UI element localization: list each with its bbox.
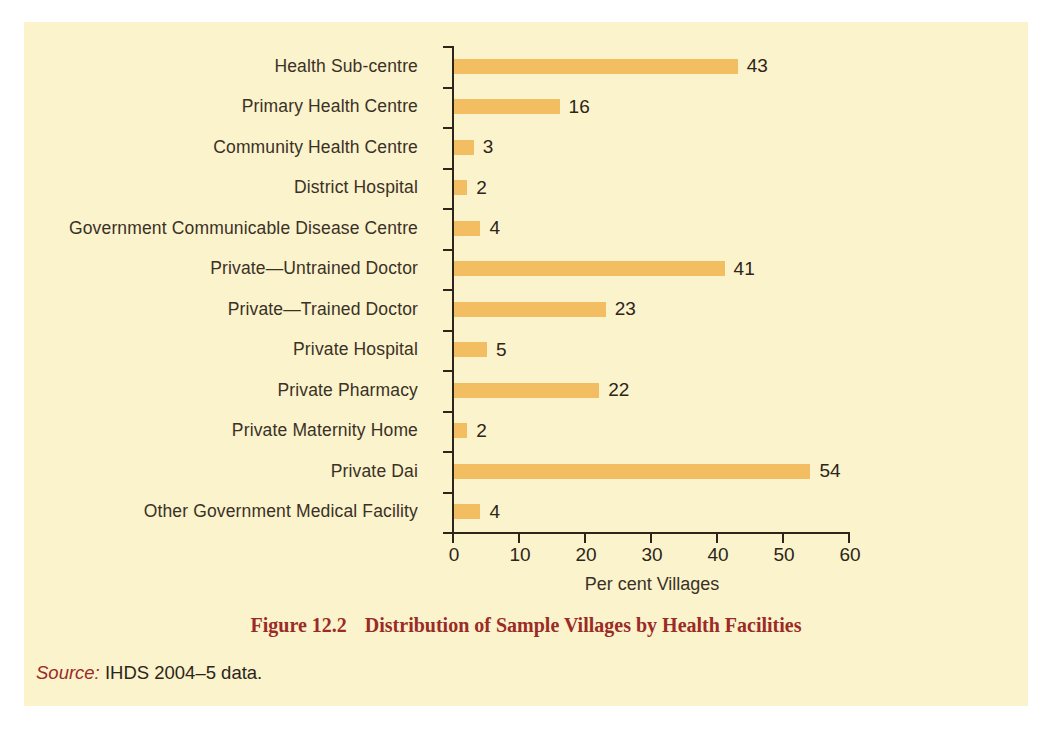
x-axis-tick-label: 0 [424,544,484,566]
category-label-private-dai: Private Dai [331,461,428,482]
x-axis-tick [650,534,652,543]
bar-value-label: 4 [480,501,500,523]
bar-government-communicable-disease-centre [454,221,480,236]
category-label-community-health-centre: Community Health Centre [213,137,428,158]
source-note: Source: IHDS 2004–5 data. [36,662,262,684]
category-label-other-government-medical-facility: Other Government Medical Facility [144,501,428,522]
bar-private-trained-doctor [454,302,606,317]
y-axis-tick [443,289,452,291]
bar-private-maternity-home [454,423,467,438]
category-label-government-communicable-disease-centre: Government Communicable Disease Centre [69,218,428,239]
x-axis-tick-label: 20 [556,544,616,566]
category-row: Private Dai [24,451,428,492]
bar-private-untrained-doctor [454,261,725,276]
x-axis-tick [584,534,586,543]
category-label-private-maternity-home: Private Maternity Home [232,420,428,441]
bar-community-health-centre [454,140,474,155]
category-label-private-untrained-doctor: Private—Untrained Doctor [210,258,428,279]
x-axis-tick-label: 60 [820,544,880,566]
category-label-private-hospital: Private Hospital [293,339,428,360]
plot-area: 0102030405060 43 16 3 2 4 41 23 5 22 2 5… [452,46,912,532]
bar-row: 4 [454,208,912,249]
bar-value-label: 54 [810,460,840,482]
y-axis-tick [443,370,452,372]
bar-chart: Health Sub-centre Primary Health Centre … [24,22,1028,582]
x-axis-tick [452,534,454,543]
bar-value-label: 2 [467,420,487,442]
x-axis-tick [518,534,520,543]
bar-row: 2 [454,411,912,452]
y-axis-tick [443,330,452,332]
category-row: Private Pharmacy [24,370,428,411]
bar-value-label: 41 [725,258,755,280]
category-row: Health Sub-centre [24,46,428,87]
x-axis-tick-label: 30 [622,544,682,566]
y-axis-tick [443,168,452,170]
y-axis-tick [443,411,452,413]
bar-primary-health-centre [454,99,560,114]
x-axis-tick [716,534,718,543]
x-axis-tick-label: 40 [688,544,748,566]
source-label: Source: [36,662,100,683]
y-axis-tick [443,127,452,129]
bar-value-label: 16 [560,96,590,118]
category-row: Private—Untrained Doctor [24,249,428,290]
category-label-health-sub-centre: Health Sub-centre [274,56,428,77]
x-axis-tick [848,534,850,543]
x-axis-title: Per cent Villages [452,574,852,595]
figure-number: Figure 12.2 [251,614,347,636]
bar-private-dai [454,464,810,479]
y-axis-tick [443,249,452,251]
bar-value-label: 23 [606,298,636,320]
y-axis-category-labels: Health Sub-centre Primary Health Centre … [24,46,428,532]
figure-title: Distribution of Sample Villages by Healt… [365,614,802,636]
bar-row: 4 [454,492,912,533]
figure-caption: Figure 12.2Distribution of Sample Villag… [24,614,1028,637]
category-row: District Hospital [24,168,428,209]
y-axis-tick [443,46,452,48]
category-label-primary-health-centre: Primary Health Centre [242,96,428,117]
bar-other-government-medical-facility [454,504,480,519]
source-text: IHDS 2004–5 data. [100,662,263,683]
y-axis-tick [443,87,452,89]
bar-row: 22 [454,370,912,411]
category-row: Private Hospital [24,330,428,371]
bar-value-label: 5 [487,339,507,361]
category-label-private-pharmacy: Private Pharmacy [277,380,428,401]
bar-row: 43 [454,46,912,87]
bar-row: 41 [454,249,912,290]
bar-value-label: 22 [599,379,629,401]
category-row: Primary Health Centre [24,87,428,128]
bar-row: 54 [454,451,912,492]
bar-row: 23 [454,289,912,330]
y-axis-tick [443,451,452,453]
bar-private-hospital [454,342,487,357]
figure-page: Health Sub-centre Primary Health Centre … [24,22,1028,706]
bar-row: 5 [454,330,912,371]
bar-row: 3 [454,127,912,168]
x-axis-tick-label: 50 [754,544,814,566]
bar-private-pharmacy [454,383,599,398]
y-axis-tick [443,208,452,210]
category-row: Other Government Medical Facility [24,492,428,533]
bar-value-label: 3 [474,136,494,158]
bar-value-label: 2 [467,177,487,199]
x-axis-tick [782,534,784,543]
bar-row: 2 [454,168,912,209]
bar-value-label: 4 [480,217,500,239]
category-row: Private Maternity Home [24,411,428,452]
bar-health-sub-centre [454,59,738,74]
category-row: Private—Trained Doctor [24,289,428,330]
category-row: Community Health Centre [24,127,428,168]
bar-row: 16 [454,87,912,128]
y-axis-tick [443,492,452,494]
bar-district-hospital [454,180,467,195]
category-label-district-hospital: District Hospital [294,177,428,198]
category-label-private-trained-doctor: Private—Trained Doctor [228,299,428,320]
category-row: Government Communicable Disease Centre [24,208,428,249]
bar-series: 43 16 3 2 4 41 23 5 22 2 54 4 [454,46,912,532]
bar-value-label: 43 [738,55,768,77]
x-axis-tick-label: 10 [490,544,550,566]
y-axis-tick [443,532,452,534]
